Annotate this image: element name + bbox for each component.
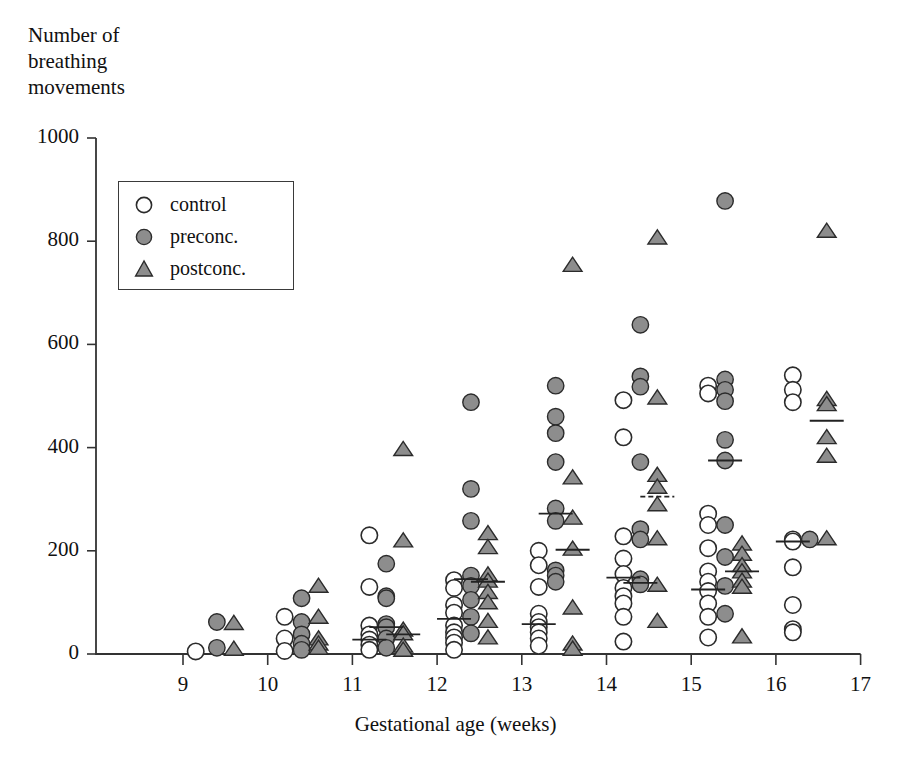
data-point-preconc <box>463 609 479 625</box>
data-point-preconc <box>547 574 563 590</box>
data-point-postconc <box>479 630 498 644</box>
data-point-preconc <box>463 481 479 497</box>
legend-item-preconc[interactable]: preconc. <box>134 225 238 248</box>
data-point-control <box>700 517 716 533</box>
data-point-control <box>531 638 547 654</box>
data-point-control <box>700 540 716 556</box>
data-point-control <box>615 392 631 408</box>
data-point-postconc <box>309 578 328 592</box>
data-point-preconc <box>632 454 648 470</box>
data-point-control <box>700 629 716 645</box>
data-point-postconc <box>817 448 836 462</box>
scatter-plot-figure: Number of breathing movements 0200400600… <box>0 0 911 775</box>
data-point-preconc <box>717 549 733 565</box>
x-tick-label: 17 <box>841 672 881 697</box>
legend-item-postconc[interactable]: postconc. <box>134 257 246 280</box>
legend-label: postconc. <box>170 257 246 280</box>
data-point-preconc <box>463 394 479 410</box>
y-tick-label: 400 <box>13 434 79 459</box>
data-point-preconc <box>378 590 394 606</box>
data-point-preconc <box>463 625 479 641</box>
x-tick-label: 16 <box>756 672 796 697</box>
filled-circle-icon <box>134 227 154 247</box>
data-point-postconc <box>817 430 836 444</box>
data-point-control <box>615 550 631 566</box>
data-point-preconc <box>717 393 733 409</box>
data-point-control <box>531 579 547 595</box>
data-point-postconc <box>817 223 836 237</box>
data-point-postconc <box>394 441 413 455</box>
data-point-control <box>361 527 377 543</box>
y-tick-label: 1000 <box>13 124 79 149</box>
x-tick-label: 15 <box>671 672 711 697</box>
data-point-postconc <box>309 609 328 623</box>
data-point-control <box>785 394 801 410</box>
data-point-preconc <box>802 531 818 547</box>
series-control <box>188 367 802 659</box>
data-point-preconc <box>378 640 394 656</box>
data-point-postconc <box>563 470 582 484</box>
data-point-preconc <box>463 592 479 608</box>
data-point-preconc <box>632 531 648 547</box>
data-point-control <box>446 642 462 658</box>
data-point-postconc <box>817 531 836 545</box>
data-point-preconc <box>717 193 733 209</box>
data-point-postconc <box>479 526 498 540</box>
data-point-preconc <box>378 556 394 572</box>
data-point-control <box>276 609 292 625</box>
data-point-preconc <box>632 576 648 592</box>
x-axis-label: Gestational age (weeks) <box>0 712 911 737</box>
series-preconc <box>209 193 818 658</box>
data-point-control <box>188 643 204 659</box>
plot-canvas <box>0 0 911 775</box>
y-tick-label: 800 <box>13 227 79 252</box>
data-point-preconc <box>717 432 733 448</box>
data-point-preconc <box>293 642 309 658</box>
data-point-postconc <box>224 641 243 655</box>
x-tick-label: 13 <box>502 672 542 697</box>
data-point-postconc <box>648 577 667 591</box>
median-markers <box>352 421 843 640</box>
x-tick-label: 11 <box>332 672 372 697</box>
filled-triangle-icon <box>134 259 154 279</box>
data-point-postconc <box>394 533 413 547</box>
data-point-preconc <box>547 377 563 393</box>
data-point-control <box>615 528 631 544</box>
data-point-postconc <box>648 230 667 244</box>
y-tick-label: 600 <box>13 330 79 355</box>
data-point-control <box>276 643 292 659</box>
legend-item-control[interactable]: control <box>134 193 227 216</box>
y-tick-label: 200 <box>13 537 79 562</box>
data-point-postconc <box>648 390 667 404</box>
data-point-control <box>361 579 377 595</box>
data-point-control <box>785 597 801 613</box>
data-point-control <box>615 609 631 625</box>
x-tick-label: 12 <box>417 672 457 697</box>
data-point-preconc <box>547 408 563 424</box>
data-point-preconc <box>717 517 733 533</box>
data-point-postconc <box>479 613 498 627</box>
y-tick-label: 0 <box>13 640 79 665</box>
data-point-postconc <box>648 531 667 545</box>
data-point-preconc <box>632 379 648 395</box>
data-point-control <box>785 624 801 640</box>
data-point-control <box>615 429 631 445</box>
legend-label: preconc. <box>170 225 238 248</box>
data-point-postconc <box>479 539 498 553</box>
data-point-preconc <box>717 578 733 594</box>
data-point-postconc <box>224 615 243 629</box>
x-axis-label-text: Gestational age (weeks) <box>355 712 557 737</box>
data-point-preconc <box>463 513 479 529</box>
data-point-postconc <box>563 541 582 555</box>
data-point-preconc <box>632 317 648 333</box>
data-point-preconc <box>547 425 563 441</box>
data-point-postconc <box>563 510 582 524</box>
data-point-control <box>531 557 547 573</box>
x-tick-label: 9 <box>163 672 203 697</box>
y-axis-label: Number of breathing movements <box>28 22 125 100</box>
data-point-preconc <box>209 614 225 630</box>
data-point-preconc <box>293 590 309 606</box>
series-postconc <box>224 223 836 656</box>
legend-label: control <box>170 193 227 216</box>
open-circle-icon <box>134 195 154 215</box>
